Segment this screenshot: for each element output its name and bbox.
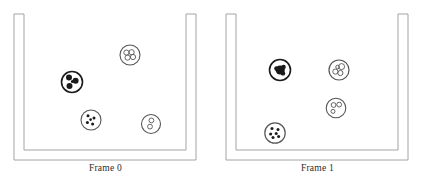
cell-rings-two (142, 115, 161, 134)
panel-frame-1: Frame 1 (212, 0, 423, 190)
scene-frame-1 (212, 0, 423, 166)
beaker-outer-wall (14, 14, 196, 160)
beaker-1 (226, 14, 408, 160)
beaker-inner-wall (24, 14, 186, 150)
organelle-filled (91, 123, 94, 126)
caption-frame-0: Frame 0 (0, 163, 211, 173)
beaker-inner-wall (236, 14, 398, 150)
organelle-filled (93, 117, 96, 120)
organelle-filled (269, 133, 272, 136)
beaker-scene-svg (0, 0, 211, 166)
cell-trefoil (62, 72, 83, 93)
cell-membrane (326, 98, 346, 118)
figure-root: Frame 0 Frame 1 (0, 0, 423, 190)
beaker-outer-wall (226, 14, 408, 160)
cell-rings-cluster (329, 60, 349, 80)
organelle-filled (281, 65, 285, 69)
cell-membrane (120, 45, 140, 65)
organelle-filled (67, 83, 73, 89)
cell-membrane (329, 60, 349, 80)
scene-frame-0 (0, 0, 211, 166)
cell-rings-two (326, 98, 346, 118)
beaker-0 (14, 14, 196, 160)
cell-dots-four (81, 110, 101, 130)
beaker-scene-svg (212, 0, 423, 166)
organelle-filled (66, 75, 72, 81)
caption-frame-1: Frame 1 (212, 163, 423, 173)
cell-solid-blob (270, 60, 291, 81)
cell-dots-six (265, 123, 285, 143)
organelle-filled (277, 135, 280, 138)
organelle-filled (277, 128, 280, 131)
organelle-filled (271, 127, 274, 130)
cells-0 (62, 45, 161, 134)
organelle-filled (274, 66, 279, 71)
organelle-filled (86, 121, 89, 124)
cells-1 (265, 60, 349, 144)
organelle-filled (281, 71, 285, 75)
cell-rings-cluster (120, 45, 140, 65)
organelle-filled (71, 80, 74, 83)
organelle-filled (89, 118, 92, 121)
panel-frame-0: Frame 0 (0, 0, 211, 190)
organelle-filled (272, 136, 275, 139)
organelle-filled (87, 114, 90, 117)
organelle-filled (275, 132, 278, 135)
